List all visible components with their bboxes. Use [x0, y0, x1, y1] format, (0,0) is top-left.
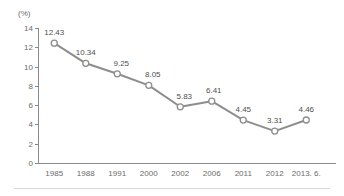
- y-axis-tick-labels: 02468101214: [24, 24, 33, 168]
- y-axis-tick-label: 8: [29, 82, 34, 91]
- data-point-marker: [83, 60, 89, 66]
- y-axis-tick-marks: [35, 29, 39, 164]
- data-point-marker: [209, 98, 215, 104]
- data-point-value-label: 5.83: [176, 92, 192, 101]
- line-chart: (%) 02468101214 12.4310.349.258.055.836.…: [0, 0, 344, 196]
- y-axis-tick-label: 6: [29, 101, 34, 110]
- data-point-marker: [272, 128, 278, 134]
- y-axis-tick-label: 14: [24, 24, 33, 33]
- data-point-marker: [146, 82, 152, 88]
- data-point-value-label: 12.43: [44, 28, 65, 37]
- data-point-marker: [240, 117, 246, 123]
- footer-divider: [14, 188, 330, 189]
- data-point-value-label: 8.05: [145, 70, 161, 79]
- x-axis-tick-label: 2002: [171, 169, 189, 178]
- x-axis-tick-label: 2011: [235, 169, 253, 178]
- series-value-labels: 12.4310.349.258.055.836.414.453.314.46: [44, 28, 314, 125]
- y-axis-tick-label: 12: [24, 43, 33, 52]
- data-point-value-label: 6.41: [206, 86, 222, 95]
- chart-canvas: 02468101214 12.4310.349.258.055.836.414.…: [0, 0, 344, 196]
- y-axis-tick-label: 2: [29, 140, 34, 149]
- x-axis-tick-label: 1988: [77, 169, 95, 178]
- data-point-value-label: 4.46: [298, 105, 314, 114]
- data-point-marker: [114, 71, 120, 77]
- data-point-marker: [303, 117, 309, 123]
- data-point-value-label: 10.34: [76, 48, 97, 57]
- data-point-value-label: 3.31: [267, 116, 283, 125]
- data-point-value-label: 4.45: [235, 105, 251, 114]
- x-axis-tick-label: 2012: [266, 169, 284, 178]
- y-axis-tick-label: 10: [24, 63, 33, 72]
- x-axis-tick-label: 1991: [108, 169, 126, 178]
- x-axis-tick-label: 2006: [203, 169, 221, 178]
- data-point-marker: [177, 104, 183, 110]
- x-axis-tick-label: 2000: [140, 169, 158, 178]
- y-axis-tick-label: 4: [29, 120, 34, 129]
- data-point-marker: [51, 40, 57, 46]
- x-axis-tick-labels: 198519881991200020022006201120122013. 6.: [45, 169, 320, 178]
- x-axis-tick-label: 1985: [45, 169, 63, 178]
- y-axis-tick-label: 0: [29, 159, 34, 168]
- data-point-value-label: 9.25: [113, 59, 129, 68]
- x-axis-tick-label: 2013. 6.: [292, 169, 321, 178]
